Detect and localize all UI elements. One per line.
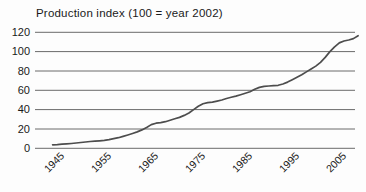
x-axis-tick-label: 1995 — [276, 149, 301, 174]
chart-canvas: 0204060801001201945195519651975198519952… — [0, 0, 366, 192]
x-axis-tick-label: 2005 — [323, 149, 348, 174]
x-axis-tick-label: 1975 — [182, 149, 207, 174]
y-axis-tick-label: 60 — [18, 84, 30, 96]
y-axis-tick-label: 20 — [18, 123, 30, 135]
production-index-chart: Production index (100 = year 2002) 02040… — [0, 0, 366, 192]
y-axis-tick-label: 80 — [18, 65, 30, 77]
x-axis-tick-label: 1945 — [41, 149, 66, 174]
y-axis-tick-label: 100 — [12, 45, 30, 57]
x-axis-tick-label: 1985 — [229, 149, 254, 174]
x-axis-tick-label: 1955 — [88, 149, 113, 174]
chart-title: Production index (100 = year 2002) — [36, 7, 223, 19]
y-axis-tick-label: 40 — [18, 103, 30, 115]
y-axis-tick-label: 120 — [12, 26, 30, 38]
y-axis-tick-label: 0 — [24, 142, 30, 154]
x-axis-tick-label: 1965 — [135, 149, 160, 174]
